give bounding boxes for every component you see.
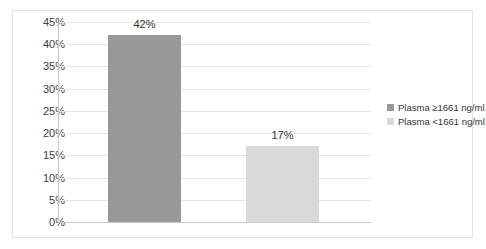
- bar-data-label: 42%: [108, 18, 181, 30]
- plot-area: 42%17%: [58, 22, 371, 223]
- legend-item-label: Plasma ≥1661 ng/ml: [398, 102, 485, 113]
- gridline: [58, 22, 371, 23]
- bar[interactable]: [246, 146, 319, 222]
- gridline: [58, 200, 371, 201]
- gridline: [58, 89, 371, 90]
- gridline: [58, 133, 371, 134]
- chart-frame: 0%5%10%15%20%25%30%35%40%45% 42%17% Plas…: [12, 10, 473, 238]
- gridline: [58, 66, 371, 67]
- legend-swatch-icon: [387, 118, 394, 125]
- legend-swatch-icon: [387, 104, 394, 111]
- legend: Plasma ≥1661 ng/mlPlasma <1661 ng/ml: [387, 102, 486, 130]
- y-axis-line: [58, 22, 59, 223]
- gridline: [58, 44, 371, 45]
- legend-item-label: Plasma <1661 ng/ml: [398, 116, 485, 127]
- gridline: [58, 155, 371, 156]
- bar-data-label: 17%: [246, 129, 319, 141]
- gridline: [58, 111, 371, 112]
- gridline: [58, 178, 371, 179]
- legend-item[interactable]: Plasma ≥1661 ng/ml: [387, 102, 486, 113]
- legend-item[interactable]: Plasma <1661 ng/ml: [387, 116, 486, 127]
- bar[interactable]: [108, 35, 181, 222]
- x-axis-line: [58, 222, 371, 223]
